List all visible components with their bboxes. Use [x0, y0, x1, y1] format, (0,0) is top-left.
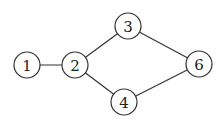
node-3: 3 [115, 13, 141, 39]
node-label: 6 [194, 56, 204, 74]
node-label: 4 [119, 94, 129, 112]
node-1: 1 [14, 52, 40, 78]
graph-diagram: 12346 [0, 0, 222, 125]
nodes: 12346 [14, 13, 212, 115]
node-2: 2 [62, 52, 88, 78]
node-4: 4 [111, 89, 137, 115]
node-6: 6 [186, 51, 212, 77]
edges [27, 26, 199, 102]
node-label: 2 [70, 57, 80, 75]
node-label: 3 [123, 18, 133, 36]
node-label: 1 [22, 57, 32, 75]
